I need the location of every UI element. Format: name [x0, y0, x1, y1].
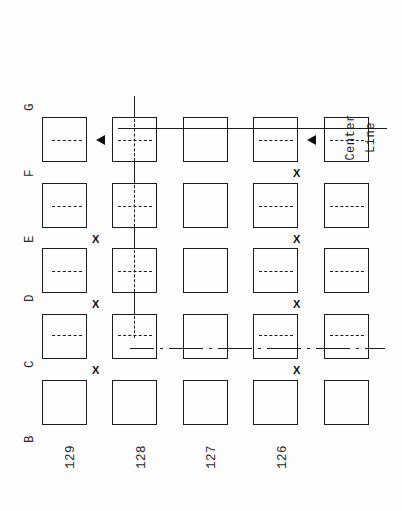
center-line-row-d-e [218, 348, 252, 349]
center-line-row-d-k [365, 348, 385, 349]
hidden-line-f2 [118, 206, 152, 207]
center-line-row-d-d [209, 348, 212, 349]
center-line-row-d-a [130, 348, 154, 349]
row-label-e: E [23, 232, 37, 246]
row-label-b: B [23, 432, 37, 446]
hidden-centerline-f2 [134, 185, 135, 227]
center-line-label-line2: Line [364, 107, 379, 169]
hidden-line-d4 [259, 335, 293, 336]
grid-cell-c5 [324, 380, 369, 425]
grid-cell-d1 [42, 314, 87, 359]
diagram-canvas: G F E D C B 129 128 127 126 [0, 0, 402, 511]
center-line-row-d-c [169, 348, 203, 349]
center-line-row-d-f [258, 348, 261, 349]
column-label-127: 127 [205, 441, 219, 473]
center-line-row-d-g [267, 348, 301, 349]
hidden-line-e4 [259, 271, 293, 272]
column-label-128: 128 [135, 441, 149, 473]
hidden-line-f4 [259, 206, 293, 207]
grid-cell-d4 [253, 314, 298, 359]
hidden-line-f1 [52, 206, 82, 207]
hidden-line-e1 [52, 271, 82, 272]
grid-cell-c1 [42, 380, 87, 425]
hidden-centerline-d2 [134, 316, 135, 338]
x-mark-7: X [293, 365, 300, 376]
arrowhead-right-g [307, 135, 316, 145]
x-mark-5: X [293, 299, 300, 310]
leader-line-g-top [131, 128, 370, 129]
hidden-line-d1 [52, 335, 82, 336]
center-line-row-d-j [356, 348, 359, 349]
hidden-line-g2 [118, 140, 152, 141]
vertical-centerline-top [134, 96, 135, 118]
hidden-centerline-g2 [134, 119, 135, 161]
center-line-row-d-b [160, 348, 163, 349]
vertical-centerline-seg-fe [134, 228, 135, 249]
grid-cell-g3 [183, 117, 228, 162]
x-mark-4: X [92, 299, 99, 310]
hidden-line-d5 [330, 335, 364, 336]
tick-line-g2 [118, 128, 142, 129]
x-mark-6: X [92, 365, 99, 376]
grid-cell-c2 [112, 380, 157, 425]
hidden-centerline-e2 [134, 250, 135, 292]
center-line-row-d-h [307, 348, 310, 349]
hidden-line-g4 [259, 140, 293, 141]
grid-cell-c4 [253, 380, 298, 425]
x-mark-1: X [293, 168, 300, 179]
grid-cell-e3 [183, 248, 228, 293]
column-label-129: 129 [64, 441, 78, 473]
vertical-centerline-seg-ed [134, 293, 135, 315]
hidden-line-g1 [52, 140, 82, 141]
center-line-row-d-i [316, 348, 350, 349]
grid-cell-f3 [183, 183, 228, 228]
row-label-d: D [23, 291, 37, 305]
grid-cell-c3 [183, 380, 228, 425]
row-label-g: G [23, 100, 37, 114]
column-label-126: 126 [276, 441, 290, 473]
hidden-line-e2 [118, 271, 152, 272]
vertical-centerline-seg-gf [134, 162, 135, 184]
row-label-c: C [23, 357, 37, 371]
grid-cell-d3 [183, 314, 228, 359]
x-mark-3: X [293, 234, 300, 245]
center-line-label-line1: Center [344, 107, 359, 169]
row-label-f: F [23, 166, 37, 180]
hidden-line-d2 [118, 335, 152, 336]
hidden-line-e5 [330, 271, 364, 272]
grid-cell-d5 [324, 314, 369, 359]
x-mark-2: X [92, 234, 99, 245]
arrowhead-left-g [96, 135, 105, 145]
hidden-line-f5 [330, 206, 364, 207]
